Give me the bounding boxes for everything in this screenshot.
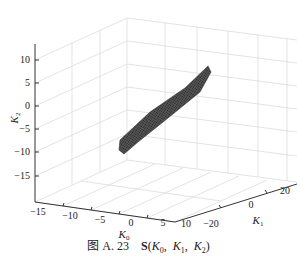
z-tick: −5 <box>19 123 30 134</box>
k2-axis-label: K2 <box>8 112 22 124</box>
k1-tick: 0 <box>249 199 254 210</box>
k0-tick: −5 <box>95 214 106 225</box>
k1-axis-label: K1 <box>252 214 264 228</box>
k0-tick-labels: −15 −10 −5 0 5 10 <box>30 206 191 229</box>
k0-tick: 0 <box>129 217 134 228</box>
z-tick: −10 <box>14 146 30 157</box>
z-tick: −15 <box>14 170 30 181</box>
k1-tick-labels: −20 0 20 <box>203 185 290 229</box>
figure-caption: 图 A. 23 S(K0, K1, K2) <box>0 236 297 255</box>
k1-tick: −20 <box>203 218 219 229</box>
k0-tick: −15 <box>30 206 46 217</box>
z-tick: 0 <box>25 100 30 111</box>
k0-tick: −10 <box>62 210 78 221</box>
k0-tick: 10 <box>181 218 191 229</box>
k1-axis-line <box>175 184 297 222</box>
grid-lines <box>35 18 297 222</box>
k1-tick: 20 <box>280 185 290 196</box>
k0-tick: 5 <box>161 217 166 228</box>
z-tick: 10 <box>20 54 30 65</box>
z-tick: 5 <box>25 77 30 88</box>
surface-plot: 10 5 0 −5 −10 −15 −15 −10 −5 0 5 10 −20 … <box>0 0 297 256</box>
